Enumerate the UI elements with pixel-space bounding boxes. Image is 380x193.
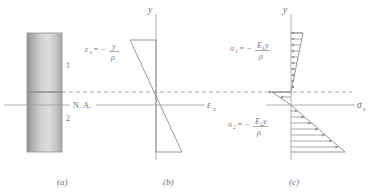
panel-b-equation: ε x = − y ρ [85,42,119,62]
panel-c-equation-top: σ 1 = − E 1 y ρ [230,41,270,61]
panel-c-eqn-top-denominator: ρ [258,52,263,61]
material-block-1 [27,33,62,92]
stress-interface-wedge-outline [272,92,291,105]
panel-c-equation-bottom: σ 2 = − E 2 y ρ [228,117,268,137]
panel-c-y-axis-label: y [282,5,288,15]
panel-c-x-axis-label: σ [357,100,362,110]
stress-upper-outline [291,33,303,92]
panel-b-x-axis-label: ε [207,100,211,110]
panel-b-y-axis-label: y [147,5,153,15]
panel-b-eqn-denominator: ρ [110,53,115,62]
panel-c-stress-diagram: y σ x [228,5,366,187]
material-2-label: 2 [66,114,70,123]
panel-c-eqn-bottom-denominator: ρ [256,128,261,137]
panel-a-cross-section: 1 2 N. A. (a) [4,33,352,187]
stress-lower-arrows [291,111,339,147]
panel-c-eqn-top-numerator-tail: y [264,41,269,50]
panel-c-caption: (c) [289,177,299,187]
panel-c-eqn-bottom-numerator-tail: y [262,117,267,126]
panel-b-eqn-numerator: y [111,42,116,51]
panel-c-eqn-top-lhs-subscript: 1 [235,48,238,54]
panel-b-eqn-equals: = − [93,45,106,54]
strain-upper-outline [130,40,156,105]
panel-c-eqn-top-equals: = − [239,44,252,53]
panel-c-eqn-bottom-lhs-subscript: 2 [233,124,236,130]
stress-interface-arrow [272,92,291,97]
panel-c-eqn-bottom-equals: = − [237,120,250,129]
neutral-axis-label: N. A. [73,101,92,110]
panel-c-x-axis-subscript: x [362,106,366,112]
stress-lower-outline [291,105,345,152]
panel-a-caption: (a) [57,177,68,187]
panel-b-x-axis-subscript: x [212,106,216,112]
panel-b-eqn-lhs: ε [85,45,89,54]
material-block-2 [27,92,62,152]
panel-b-strain-diagram: y ε x ε x = − y ρ (b) [85,5,216,187]
panel-b-eqn-lhs-subscript: x [89,49,93,55]
composite-beam-figure: 1 2 N. A. (a) y ε x ε x = − y ρ (b) [0,0,380,193]
strain-lower-outline [156,105,182,152]
panel-b-caption: (b) [163,177,174,187]
material-1-label: 1 [66,61,70,70]
